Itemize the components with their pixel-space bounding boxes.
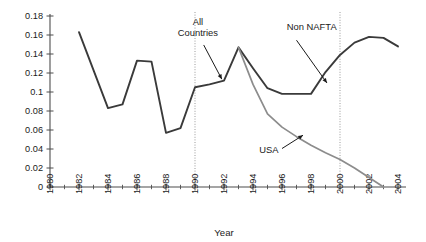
x-tick-label: 1990 <box>190 174 200 194</box>
y-tick-label: 0.04 <box>25 144 43 154</box>
x-tick-label: 2004 <box>393 174 403 194</box>
y-tick-label: 0.02 <box>25 163 43 173</box>
annotation-label-all-countries: AllCountries <box>178 16 218 38</box>
y-tick-label: 0.08 <box>25 106 43 116</box>
series-line-usa <box>239 47 384 187</box>
line-chart: 00.020.040.060.080.10.120.140.160.18 198… <box>0 0 426 242</box>
y-tick-label: 0.16 <box>25 30 43 40</box>
x-tick-label: 1986 <box>132 174 142 194</box>
series-lines <box>79 32 398 187</box>
axes <box>47 14 407 191</box>
annotation-label-non-nafta: Non NAFTA <box>287 21 338 32</box>
x-tick-labels: 1980198219841986198819901992199419961998… <box>45 174 403 194</box>
chart-container: 00.020.040.060.080.10.120.140.160.18 198… <box>0 0 426 242</box>
x-tick-label: 1988 <box>161 174 171 194</box>
y-tick-label: 0.14 <box>25 49 43 59</box>
y-tick-label: 0.06 <box>25 125 43 135</box>
x-tick-label: 2000 <box>335 174 345 194</box>
x-tick-label: 1982 <box>74 174 84 194</box>
annotation-arrow-non-nafta <box>297 40 327 83</box>
annotation-arrow-all-countries <box>204 45 222 79</box>
annotation-arrowhead-non-nafta <box>322 78 326 83</box>
x-tick-label: 1984 <box>103 174 113 194</box>
x-tick-label: 1994 <box>248 174 258 194</box>
y-tick-label: 0 <box>38 182 43 192</box>
x-tick-label: 1998 <box>306 174 316 194</box>
y-tick-label: 0.1 <box>30 87 43 97</box>
x-tick-label: 2002 <box>364 174 374 194</box>
x-tick-label: 1992 <box>219 174 229 194</box>
x-tick-label: 1996 <box>277 174 287 194</box>
annotation-label-usa: USA <box>259 144 279 155</box>
x-axis-title: Year <box>214 227 234 238</box>
y-tick-label: 0.18 <box>25 11 43 21</box>
reference-lines <box>195 12 340 187</box>
y-tick-labels: 00.020.040.060.080.10.120.140.160.18 <box>25 11 43 192</box>
x-tick-label: 1980 <box>45 174 55 194</box>
y-tick-label: 0.12 <box>25 68 43 78</box>
